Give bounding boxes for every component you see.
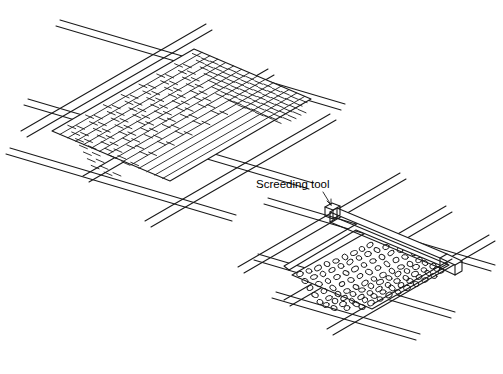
screeding-tool-label: Screeding tool [256, 178, 330, 190]
screeding-tool-label-group: Screeding tool [256, 178, 331, 205]
isometric-paving-diagram: Screeding tool [0, 0, 503, 374]
upper-brick-panel [52, 49, 311, 181]
diagram-canvas: Screeding tool [0, 0, 503, 374]
upper-panel-assembly [6, 20, 345, 227]
lower-aggregate-panel [292, 231, 449, 311]
lower-panel-assembly [238, 173, 495, 340]
